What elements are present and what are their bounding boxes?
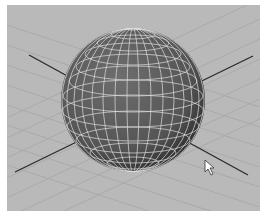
3d-viewport[interactable] — [7, 5, 260, 211]
scene — [7, 5, 260, 211]
mouse-cursor-icon — [205, 160, 214, 175]
